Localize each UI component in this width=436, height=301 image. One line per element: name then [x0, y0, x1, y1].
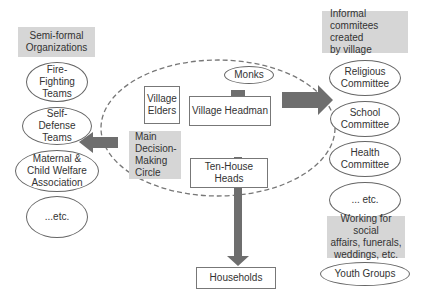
main-decision-making-circle: Main Decision- Making Circle	[129, 131, 181, 179]
left-etc: ...etc.	[26, 196, 88, 238]
maternal-child-welfare: Maternal & Child Welfare Association	[15, 150, 99, 192]
ten-house-heads: Ten-House Heads	[190, 158, 268, 188]
youth-groups: Youth Groups	[320, 262, 410, 286]
religious-committee: Religious Committee	[329, 60, 401, 96]
right-arrow-icon	[282, 85, 333, 115]
semi-formal-header: Semi-formal Organizations	[18, 27, 95, 57]
households: Households	[196, 267, 276, 289]
fire-fighting-teams: Fire- Fighting Teams	[26, 62, 88, 102]
self-defense-teams: Self- Defense Teams	[22, 107, 92, 145]
informal-committees-header: Informal commitees created by village	[322, 11, 408, 53]
village-elders: Village Elders	[144, 86, 180, 124]
monks: Monks	[224, 66, 274, 84]
social-affairs-header: Working for social affairs, funerals, we…	[327, 216, 405, 258]
school-committee: School Committee	[330, 101, 400, 137]
health-committee: Health Committee	[329, 141, 401, 177]
village-headman: Village Headman	[189, 96, 271, 126]
